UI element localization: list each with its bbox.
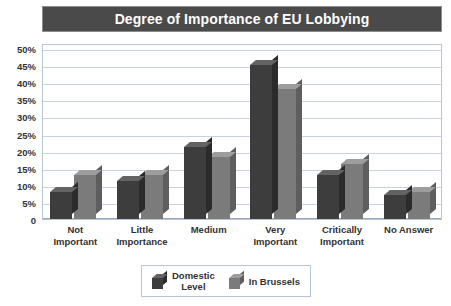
x-axis-tick-label: VeryImportant [242, 224, 309, 247]
y-axis-tick-label: 5% [22, 197, 36, 208]
bar-side-face [230, 147, 236, 214]
legend-entry: DomesticLevel [152, 270, 215, 292]
y-axis-tick-label: 25% [17, 129, 36, 140]
bar [250, 65, 272, 219]
y-axis-tick-label: 45% [17, 61, 36, 72]
legend-swatch-front-face [229, 278, 240, 289]
x-axis-tick-label: Medium [175, 224, 242, 236]
bar-front-face [184, 147, 206, 219]
plot-area [42, 44, 442, 220]
y-axis-tick-label: 50% [17, 44, 36, 55]
y-axis-tick-label: 15% [17, 163, 36, 174]
x-axis-tick-label: CriticallyImportant [309, 224, 376, 247]
y-axis-tick-label: 10% [17, 180, 36, 191]
bar [50, 192, 72, 219]
x-axis-tick-label: No Answer [375, 224, 442, 236]
page-title: Degree of Importance of EU Lobbying [115, 11, 370, 27]
bar-group [310, 45, 377, 219]
y-axis-tick-label: 40% [17, 78, 36, 89]
bar-group [176, 45, 243, 219]
legend-label: DomesticLevel [172, 270, 215, 292]
bar-side-face [206, 137, 212, 214]
bar-group [110, 45, 177, 219]
bar-front-face [250, 65, 272, 219]
x-axis-tick-label: NotImportant [42, 224, 109, 247]
legend-entry: In Brussels [229, 274, 300, 289]
bar-front-face [50, 192, 72, 219]
legend-swatch-icon [152, 274, 165, 289]
chart-title-bar: Degree of Importance of EU Lobbying [42, 6, 442, 32]
bar-group [43, 45, 110, 219]
legend-label: In Brussels [249, 276, 300, 287]
bar [184, 147, 206, 219]
bar-side-face [296, 79, 302, 214]
chart-container: Degree of Importance of EU Lobbying 50%4… [0, 0, 451, 306]
bar-group [376, 45, 443, 219]
y-axis-tick-label: 20% [17, 146, 36, 157]
legend-swatch-front-face [152, 278, 163, 289]
bar [384, 195, 406, 219]
y-axis-tick-label: 0 [31, 215, 36, 226]
bar-front-face [117, 181, 139, 219]
bar-side-face [272, 55, 278, 214]
y-axis: 50%45%40%35%30%25%20%15%10%5%0 [0, 44, 40, 220]
y-axis-tick-label: 30% [17, 112, 36, 123]
chart-legend: DomesticLevelIn Brussels [141, 265, 311, 297]
legend-swatch-icon [229, 274, 242, 289]
x-axis: NotImportantLittleImportanceMediumVeryIm… [42, 224, 442, 258]
x-axis-tick-label: LittleImportance [109, 224, 176, 247]
y-axis-tick-label: 35% [17, 95, 36, 106]
bar-group [243, 45, 310, 219]
bar-front-face [317, 175, 339, 219]
bar-front-face [384, 195, 406, 219]
bar [117, 181, 139, 219]
bar [317, 175, 339, 219]
